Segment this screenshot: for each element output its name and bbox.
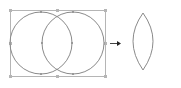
selection-bounding-box [11, 11, 106, 77]
anchor-points [40, 11, 74, 75]
boolean-intersect-diagram [0, 0, 181, 88]
arrow-right-icon [110, 41, 121, 46]
lens-intersection-shape [133, 13, 153, 70]
